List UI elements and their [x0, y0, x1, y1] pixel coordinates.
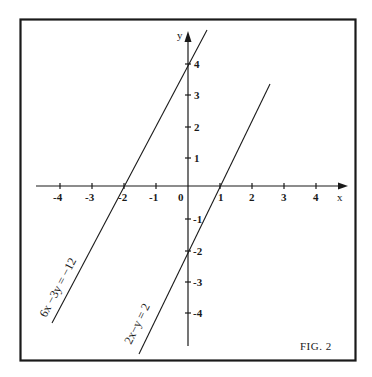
- x-tick-label: -2: [118, 191, 128, 203]
- origin-label: 0: [178, 191, 184, 203]
- x-tick-label: 1: [218, 191, 224, 203]
- y-tick-label: -3: [193, 276, 203, 288]
- x-tick-label: 2: [249, 191, 255, 203]
- y-tick-label: -4: [193, 307, 203, 319]
- figure-caption: FIG. 2: [300, 340, 332, 352]
- y-tick-label: 1: [194, 152, 200, 164]
- y-tick-label: 3: [194, 89, 200, 101]
- y-tick-label: 2: [194, 121, 200, 133]
- x-axis-label: x: [337, 191, 343, 203]
- line-2x-y-2: [139, 84, 270, 354]
- x-axis-arrow-icon: [338, 183, 348, 190]
- x-tick-label: -3: [85, 191, 95, 203]
- y-axis: [185, 31, 192, 346]
- y-axis-label: y: [177, 29, 183, 41]
- y-axis-arrow-icon: [185, 31, 192, 42]
- y-tick-label: -1: [193, 213, 202, 225]
- x-axis: [36, 183, 348, 190]
- line-6x-3y-neg12: [52, 30, 207, 323]
- x-tick-label: -4: [53, 191, 63, 203]
- y-tick-label: 4: [194, 58, 200, 70]
- y-tick-label: -2: [193, 245, 203, 257]
- x-tick-label: 4: [313, 191, 319, 203]
- equation-label-line2: 2x−y = 2: [121, 301, 153, 346]
- equation-label-line1: 6x −3y = −12: [36, 255, 79, 319]
- x-tick-label: -1: [149, 191, 158, 203]
- figure-canvas: y x 0 -4 -3 -2 -1 1 2 3 4 4 3 2 1 -1 -2 …: [0, 0, 372, 377]
- x-tick-label: 3: [281, 191, 287, 203]
